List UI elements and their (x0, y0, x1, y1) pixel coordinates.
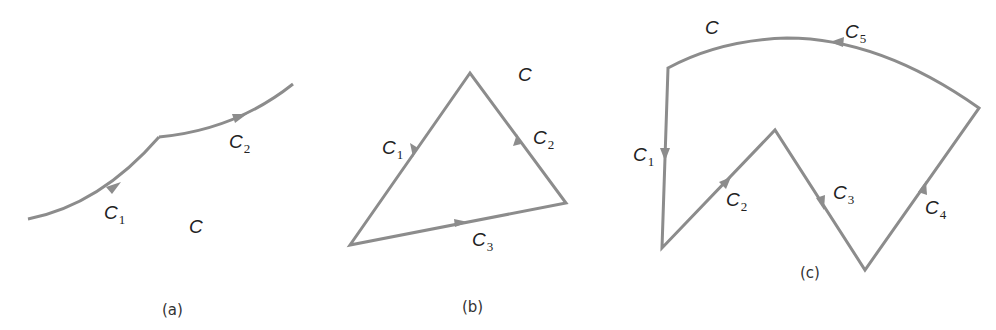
triangle-path (350, 73, 566, 245)
curve-c1 (28, 137, 159, 219)
panel-c: C1 C2 C3 C4 C5 C (c) (633, 17, 979, 282)
piecewise-curves-figure: C1 C2 C (a) C1 C2 C3 C (b) C1 C2 C3 C4 C… (0, 0, 996, 330)
label-c2: C2 (533, 127, 554, 152)
arrow-c5-icon (830, 37, 844, 47)
panel-a: C1 C2 C (a) (28, 84, 293, 319)
region-label-c: C (518, 64, 532, 85)
closed-path (662, 38, 979, 270)
region-label-c: C (189, 216, 203, 237)
label-c2: C2 (229, 131, 250, 156)
caption-a: (a) (162, 301, 183, 319)
curve-c2 (159, 84, 293, 137)
label-c4: C4 (925, 197, 947, 222)
label-c3: C3 (833, 182, 854, 207)
caption-c: (c) (800, 264, 820, 282)
caption-b: (b) (462, 298, 483, 316)
arrow-c1-icon (660, 148, 670, 161)
label-c1: C1 (382, 137, 403, 162)
label-c1: C1 (633, 144, 654, 169)
label-c1: C1 (104, 202, 125, 227)
label-c2: C2 (726, 189, 747, 214)
panel-b: C1 C2 C3 C (b) (350, 64, 566, 316)
label-c3: C3 (472, 229, 493, 254)
region-label-c: C (705, 17, 719, 38)
label-c5: C5 (845, 21, 866, 46)
arrow-c2-icon (232, 114, 247, 123)
